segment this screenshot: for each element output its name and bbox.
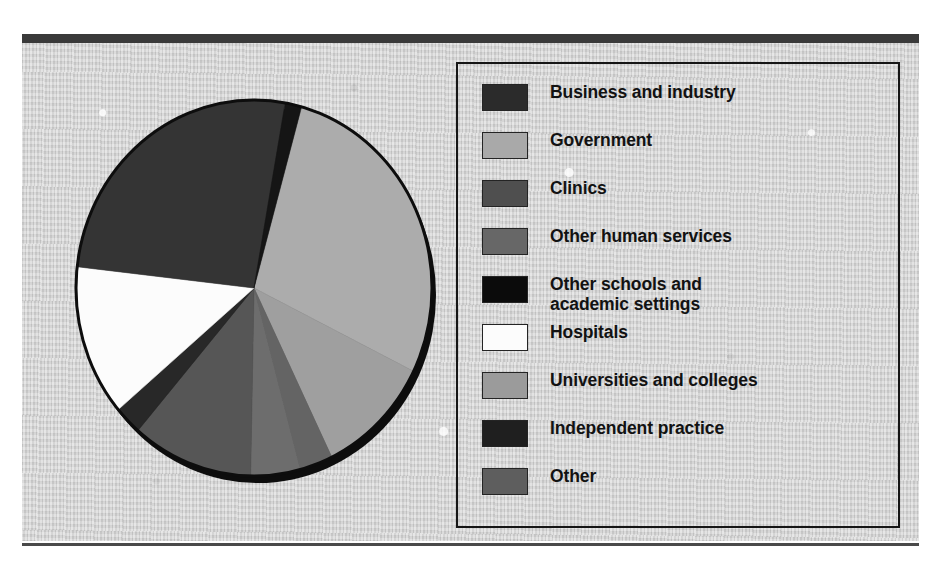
legend-swatch bbox=[482, 84, 528, 111]
legend-item[interactable]: Other schools and academic settings bbox=[482, 274, 888, 322]
figure-container: Business and industryGovernmentClinicsOt… bbox=[22, 34, 919, 546]
legend-swatch bbox=[482, 228, 528, 255]
legend-item[interactable]: Other human services bbox=[482, 226, 888, 274]
figure-plate-background: Business and industryGovernmentClinicsOt… bbox=[22, 43, 919, 541]
pie-chart bbox=[68, 95, 440, 493]
legend-item-label: Government bbox=[550, 130, 652, 150]
legend-item-label: Independent practice bbox=[550, 418, 724, 438]
legend-item[interactable]: Other bbox=[482, 466, 888, 514]
legend-item[interactable]: Universities and colleges bbox=[482, 370, 888, 418]
legend-item[interactable]: Government bbox=[482, 130, 888, 178]
legend-item-label: Other schools and academic settings bbox=[550, 274, 702, 315]
legend-item[interactable]: Independent practice bbox=[482, 418, 888, 466]
legend-swatch bbox=[482, 276, 528, 303]
legend-item-label: Other bbox=[550, 466, 596, 486]
legend-item[interactable]: Hospitals bbox=[482, 322, 888, 370]
legend-item[interactable]: Clinics bbox=[482, 178, 888, 226]
figure-top-rule bbox=[22, 34, 919, 43]
legend-item-label: Universities and colleges bbox=[550, 370, 758, 390]
pie-slices bbox=[76, 100, 432, 476]
legend-swatch bbox=[482, 420, 528, 447]
legend-swatch bbox=[482, 324, 528, 351]
legend-swatch bbox=[482, 180, 528, 207]
pie-chart-svg bbox=[68, 95, 440, 493]
legend-list: Business and industryGovernmentClinicsOt… bbox=[482, 82, 888, 514]
legend-item-label: Other human services bbox=[550, 226, 732, 246]
legend-swatch bbox=[482, 132, 528, 159]
legend-item-label: Hospitals bbox=[550, 322, 628, 342]
figure-bottom-rule bbox=[22, 543, 919, 546]
legend-swatch bbox=[482, 372, 528, 399]
legend-swatch bbox=[482, 468, 528, 495]
legend-item-label: Clinics bbox=[550, 178, 607, 198]
legend-item[interactable]: Business and industry bbox=[482, 82, 888, 130]
legend-item-label: Business and industry bbox=[550, 82, 736, 102]
pie-sheen bbox=[76, 100, 432, 476]
figure-page: Business and industryGovernmentClinicsOt… bbox=[0, 0, 941, 571]
legend-box: Business and industryGovernmentClinicsOt… bbox=[456, 62, 900, 528]
